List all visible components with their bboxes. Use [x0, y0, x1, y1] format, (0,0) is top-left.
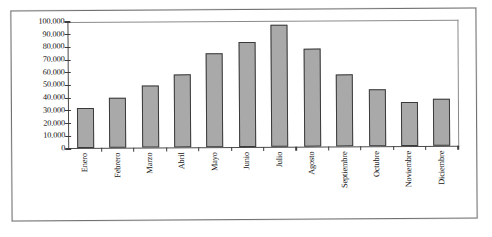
bar-slot	[101, 22, 134, 148]
x-axis-label-slot: Octubre	[361, 151, 394, 213]
bar	[141, 85, 158, 147]
x-axis-label-slot: Febrero	[102, 153, 135, 215]
bar	[174, 74, 191, 147]
bar	[433, 98, 450, 145]
y-axis: 100.00090.00080.00070.00060.00050.00040.…	[11, 22, 68, 149]
x-axis-label: Abril	[178, 152, 187, 169]
bar-series	[68, 20, 458, 148]
bar	[77, 108, 94, 148]
bar	[368, 89, 385, 146]
x-axis-label: Septiembre	[341, 151, 350, 188]
bar	[271, 25, 289, 147]
x-axis-label-slot: Agosto	[296, 151, 329, 213]
bar	[109, 97, 126, 147]
bar-chart: 100.00090.00080.00070.00060.00050.00040.…	[11, 9, 476, 221]
x-axis-label: Junio	[243, 152, 252, 169]
bar	[336, 75, 353, 147]
x-axis-label: Marzo	[146, 153, 155, 174]
x-axis-label-slot: Junio	[231, 152, 264, 214]
x-axis-label-slot: Abril	[166, 152, 199, 214]
x-axis-label: Febrero	[114, 153, 123, 178]
x-axis-label: Agosto	[308, 152, 317, 175]
bar-slot	[295, 20, 328, 146]
x-axis-label: Diciembre	[438, 151, 447, 185]
x-axis-label-slot: Diciembre	[426, 151, 459, 213]
chart-page: 100.00090.00080.00070.00060.00050.00040.…	[0, 0, 492, 237]
x-axis-label-slot: Enero	[69, 153, 102, 215]
bar-slot	[263, 21, 296, 147]
x-axis-label: Octubre	[373, 151, 382, 177]
x-axis-label-slot: Julio	[264, 152, 297, 214]
bar-slot	[231, 21, 264, 147]
x-axis-label-slot: Marzo	[134, 152, 167, 214]
bar	[401, 102, 418, 146]
x-axis-label-slot: Septiembre	[329, 151, 362, 213]
x-axis-label: Noviembre	[405, 151, 414, 187]
x-axis-labels: EneroFebreroMarzoAbrilMayoJunioJulioAgos…	[69, 151, 458, 215]
bar-slot	[425, 20, 458, 146]
bar-slot	[133, 21, 166, 147]
chart-outer-frame: 100.00090.00080.00070.00060.00050.00040.…	[10, 8, 477, 222]
bar-slot	[198, 21, 231, 147]
x-axis-label-slot: Mayo	[199, 152, 232, 214]
y-axis-tick-label: 100.000	[38, 17, 67, 25]
x-axis-label: Enero	[81, 153, 90, 172]
bar	[303, 48, 321, 146]
bar	[238, 42, 256, 147]
bar-slot	[68, 22, 101, 148]
x-axis-label: Julio	[276, 152, 285, 168]
bar-slot	[393, 20, 426, 146]
bar-slot	[328, 20, 361, 146]
x-axis-label-slot: Noviembre	[393, 151, 426, 213]
x-axis-label: Mayo	[211, 152, 220, 171]
bar-slot	[360, 20, 393, 146]
bar-slot	[166, 21, 199, 147]
bar	[206, 53, 224, 147]
